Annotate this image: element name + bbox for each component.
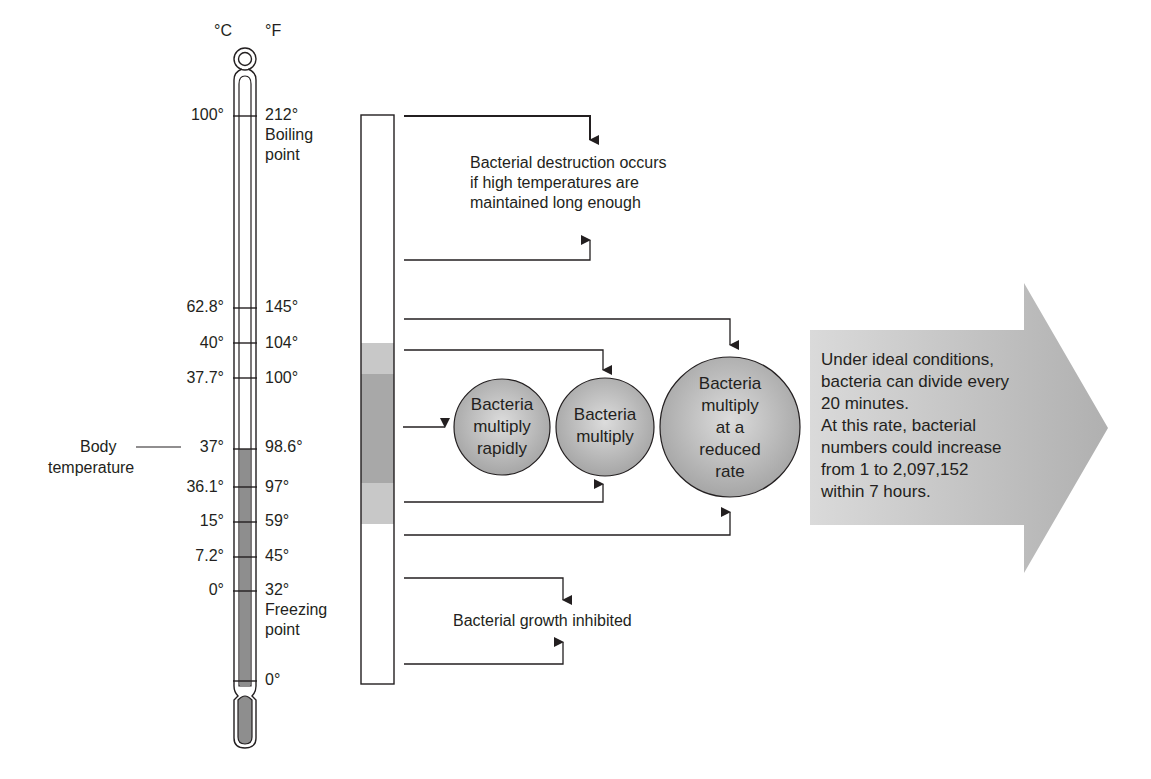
body-temperature-label: temperature [48,458,134,478]
inhibited-note: Bacterial growth inhibited [453,611,632,631]
freezing-point-label: Freezing [265,600,327,620]
boiling-point-label: Boiling [265,125,313,145]
temperature-zone-bar [361,115,394,684]
celsius-mark: 37.7° [160,368,224,388]
fahrenheit-mark: 98.6° [265,437,303,457]
freezing-point-label: point [265,620,300,640]
celsius-mark: 15° [160,511,224,531]
thermometer [136,48,257,748]
fahrenheit-mark: 0° [265,670,280,690]
fahrenheit-mark: 100° [265,368,298,388]
celsius-mark: 62.8° [160,297,224,317]
celsius-mark: 100° [160,105,224,125]
fahrenheit-mark: 59° [265,511,289,531]
celsius-mark: 40° [160,333,224,353]
fahrenheit-mark: 97° [265,477,289,497]
celsius-mark: 0° [160,580,224,600]
fahrenheit-mark: 45° [265,546,289,566]
body-temperature-label: Body [80,437,116,457]
celsius-mark: 37° [160,437,224,457]
fahrenheit-mark: 212° [265,105,298,125]
fahrenheit-mark: 145° [265,297,298,317]
boiling-point-label: point [265,145,300,165]
celsius-mark: 36.1° [160,477,224,497]
fahrenheit-unit-label: °F [265,21,281,41]
fahrenheit-mark: 32° [265,580,289,600]
celsius-unit-label: °C [180,21,232,41]
circle-multiply: Bacteria multiply [556,401,654,451]
fahrenheit-mark: 104° [265,333,298,353]
circle-multiply-reduced-rate: Bacteria multiply at a reduced rate [670,370,790,485]
celsius-mark: 7.2° [160,546,224,566]
circle-multiply-rapidly: Bacteria multiply rapidly [454,390,550,464]
